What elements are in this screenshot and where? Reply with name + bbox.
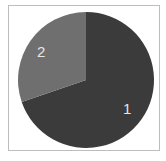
- slice-label-1: 1: [123, 100, 131, 117]
- pie-chart: 2 1: [0, 0, 166, 161]
- slice-label-2: 2: [37, 43, 45, 60]
